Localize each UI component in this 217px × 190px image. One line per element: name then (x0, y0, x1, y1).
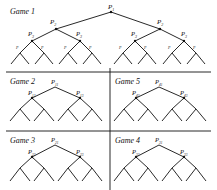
game-1-tree (11, 12, 205, 64)
node-label: P3 (180, 30, 187, 39)
node-label: P (88, 45, 92, 50)
node-label: P41 (154, 78, 163, 87)
node-label: P2 (49, 18, 56, 27)
node-label: P3 (130, 30, 137, 39)
node-label: P3 (75, 30, 82, 39)
node-label: P12 (27, 89, 36, 98)
node-label: P (63, 45, 67, 50)
node-label: P32 (131, 148, 140, 157)
node-label: P (118, 45, 122, 50)
node-label: P (167, 45, 171, 50)
game-3-tree (10, 145, 102, 181)
game-4-tree (114, 145, 206, 181)
node-label: P11 (50, 78, 58, 87)
game-1-title: Game 1 (10, 7, 35, 16)
node-label: P (143, 45, 147, 50)
game-2-tree (10, 87, 102, 121)
node-label: P2 (156, 18, 163, 27)
node-label: P3 (27, 30, 34, 39)
node-label: P22 (27, 148, 36, 157)
game-3-title: Game 3 (10, 136, 35, 145)
game-trees-diagram: Game 1 Game 2 Game 5 Game 3 Game 4 P1 P2… (0, 0, 217, 190)
game-2-title: Game 2 (10, 77, 35, 86)
node-label: P42 (131, 89, 140, 98)
game-4-title: Game 4 (115, 136, 140, 145)
node-label: P1 (107, 3, 114, 12)
node-label: P (15, 45, 19, 50)
game-5-tree (114, 87, 206, 121)
node-label: P21 (50, 136, 59, 145)
node-label: P (192, 45, 196, 50)
game-5-title: Game 5 (115, 77, 140, 86)
node-label: P (40, 45, 44, 50)
node-label: P31 (154, 136, 163, 145)
